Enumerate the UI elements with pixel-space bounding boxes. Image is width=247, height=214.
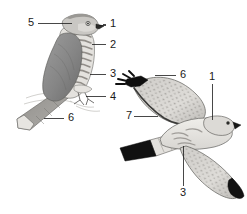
label-6-perched: 6 (68, 112, 74, 123)
label-4-perched: 4 (110, 91, 116, 102)
perched-thigh (74, 85, 92, 93)
flying-eye (226, 121, 229, 124)
perched-pupil (87, 23, 89, 25)
flying-tail-band (120, 140, 156, 161)
flying-bird-figure (116, 71, 244, 199)
plate-artwork (0, 0, 247, 214)
label-1-perched: 1 (110, 18, 116, 29)
label-1-flying: 1 (209, 71, 215, 82)
label-3-perched: 3 (110, 68, 116, 79)
bird-identification-plate: 5 1 2 3 4 6 6 1 7 3 (0, 0, 247, 214)
label-3-flying: 3 (180, 187, 186, 198)
perched-bird-figure (17, 14, 104, 130)
label-7-flying: 7 (126, 110, 132, 121)
label-5-perched: 5 (28, 17, 34, 28)
label-2-perched: 2 (110, 39, 116, 50)
label-6-flying: 6 (180, 69, 186, 80)
